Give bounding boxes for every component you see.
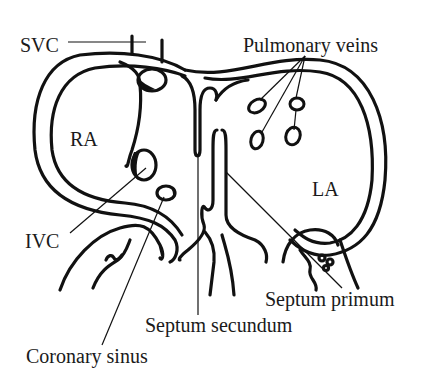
septum-secundum-shape	[182, 76, 248, 156]
ivc-leader	[70, 168, 146, 233]
label-ivc: IVC	[25, 230, 59, 252]
label-coronary-sinus: Coronary sinus	[26, 345, 148, 368]
lower-left-atrium-folds	[283, 230, 358, 290]
label-svc: SVC	[20, 34, 59, 56]
label-septum-secundum: Septum secundum	[145, 314, 293, 337]
label-ra: RA	[70, 128, 98, 150]
lower-right-atrium-folds	[60, 225, 163, 290]
septum-primum-shape	[179, 130, 266, 295]
label-septum-primum: Septum primum	[265, 288, 395, 311]
pv-leader-2	[262, 56, 305, 132]
ivc-opening	[132, 150, 156, 180]
pulmonary-vein-openings	[246, 96, 304, 150]
coronary-sinus-opening	[157, 186, 176, 200]
outer-atrial-wall	[34, 53, 386, 262]
label-pulmonary-veins: Pulmonary veins	[243, 34, 378, 57]
heart-septum-diagram: SVC Pulmonary veins RA LA IVC Septum pri…	[0, 0, 438, 377]
label-la: LA	[312, 178, 339, 200]
pv-leader-3	[296, 56, 305, 98]
